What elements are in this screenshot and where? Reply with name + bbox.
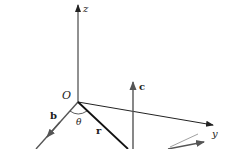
vector-diagram: z y O b θ r c	[0, 0, 226, 149]
y-axis-label: y	[211, 128, 218, 139]
angle-theta-label: θ	[76, 117, 82, 127]
vector-b-arrow	[47, 122, 60, 137]
angle-arc	[70, 111, 87, 114]
vector-c-label: c	[139, 81, 145, 92]
z-axis-label: z	[82, 3, 89, 14]
vector-r-label: r	[96, 125, 102, 136]
vector-b-label: b	[50, 110, 57, 121]
partial-guide-line	[170, 134, 198, 147]
origin-label: O	[62, 89, 71, 102]
